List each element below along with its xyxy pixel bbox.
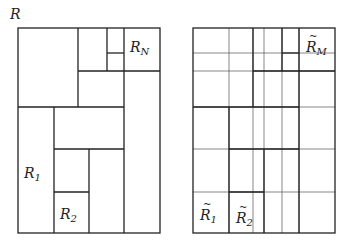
partition-figure — [0, 0, 350, 243]
label-r-n: RN — [130, 40, 149, 54]
label-r-tilde-2: R2 — [236, 211, 253, 225]
label-r-tilde-m: RM — [306, 40, 327, 54]
label-r-2: R2 — [60, 207, 77, 221]
label-r-1: R1 — [24, 166, 41, 180]
label-r-tilde-1: R1 — [200, 208, 217, 222]
diagram-canvas: R RN R1 R2 RM R1 R2 — [0, 0, 350, 243]
